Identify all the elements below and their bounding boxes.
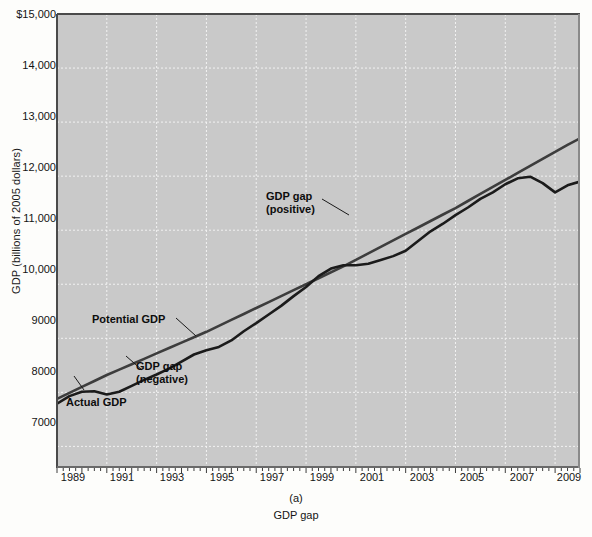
annotation-potential-gdp: Potential GDP xyxy=(92,313,165,326)
x-tick-label: 2007 xyxy=(510,471,534,483)
annotation-gdp-gap-negative: GDP gap(negative) xyxy=(136,360,188,386)
gdp-gap-positive-line1: GDP gap xyxy=(266,190,312,202)
x-axis-tick-labels: 1989 1991 1993 1995 1997 1999 2001 2003 … xyxy=(0,471,592,491)
y-tick-label: 14,000 xyxy=(4,59,56,71)
x-tick-label: 2009 xyxy=(557,471,581,483)
panel-label: (a) xyxy=(0,492,592,504)
x-tick-label: 1989 xyxy=(61,471,85,483)
gdp-gap-negative-line2: (negative) xyxy=(136,373,188,385)
x-tick-label: 2005 xyxy=(460,471,484,483)
figure-caption: GDP gap xyxy=(0,509,592,521)
y-tick-label: 13,000 xyxy=(4,110,56,122)
plot-border-right xyxy=(578,14,580,468)
y-tick-label: 7000 xyxy=(4,416,56,428)
plot-area xyxy=(0,0,592,537)
plot-background xyxy=(57,14,580,468)
annotation-actual-gdp: Actual GDP xyxy=(66,396,127,409)
y-axis-tick-labels: $15,000 14,000 13,000 12,000 11,000 10,0… xyxy=(0,0,56,480)
annotation-gdp-gap-positive: GDP gap(positive) xyxy=(266,190,315,216)
x-tick-label: 1995 xyxy=(210,471,234,483)
y-tick-label: 10,000 xyxy=(4,263,56,275)
x-tick-label: 1997 xyxy=(260,471,284,483)
plot-border-left xyxy=(56,14,58,468)
y-tick-label: 11,000 xyxy=(4,212,56,224)
gdp-gap-figure: GDP (billions of 2005 dollars) $15,000 1… xyxy=(0,0,592,537)
x-tick-label: 2001 xyxy=(360,471,384,483)
y-tick-label: $15,000 xyxy=(4,8,56,20)
y-tick-label: 9000 xyxy=(4,314,56,326)
y-tick-label: 8000 xyxy=(4,365,56,377)
x-tick-label: 1999 xyxy=(310,471,334,483)
gdp-gap-negative-line1: GDP gap xyxy=(136,360,182,372)
plot-border-bottom xyxy=(57,466,580,468)
x-tick-label: 1993 xyxy=(160,471,184,483)
plot-border-top xyxy=(57,13,580,15)
y-tick-label: 12,000 xyxy=(4,161,56,173)
x-tick-label: 2003 xyxy=(410,471,434,483)
x-tick-label: 1991 xyxy=(110,471,134,483)
gdp-gap-positive-line2: (positive) xyxy=(266,203,315,215)
